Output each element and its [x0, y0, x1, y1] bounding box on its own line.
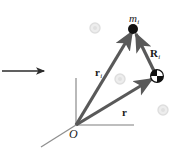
- vector-r-line: [76, 79, 152, 125]
- vector-Ri-label-subscript: i: [158, 53, 160, 61]
- vector-r-label: r: [122, 103, 127, 120]
- origin-label: O: [69, 128, 78, 140]
- diagram-canvas: [0, 0, 180, 154]
- vector-Ri-label-base: R: [150, 47, 158, 59]
- mass-label-subscript: i: [137, 18, 139, 26]
- vector-ri-label-subscript: i: [100, 72, 102, 80]
- watermark-circle-inner: [93, 26, 97, 30]
- vector-Ri-label: Ri: [150, 44, 160, 61]
- vector-diagram-figure: mi ri Ri r O: [0, 0, 180, 154]
- mass-label-base: m: [129, 12, 137, 24]
- vector-ri-label: ri: [95, 63, 102, 80]
- vector-r-label-base: r: [122, 106, 127, 118]
- center-of-mass-quadrant-icon: [151, 70, 164, 83]
- mass-point-label: mi: [129, 9, 139, 26]
- coordinate-axes: [41, 78, 134, 147]
- watermark-circle-inner: [118, 77, 122, 81]
- watermark-circle-inner: [161, 108, 165, 112]
